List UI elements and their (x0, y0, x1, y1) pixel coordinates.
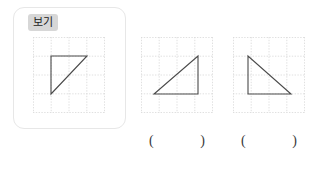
answer-blank-a[interactable]: ( ) (141, 131, 213, 151)
paren-close: ) (292, 134, 297, 148)
option-a-triangle-shape (154, 56, 198, 94)
paren-open: ( (149, 134, 154, 148)
option-b-grid (233, 37, 305, 113)
paren-close: ) (200, 134, 205, 148)
answer-blank-b[interactable]: ( ) (233, 131, 305, 151)
example-badge-label: 보기 (28, 14, 58, 31)
example-grid (33, 37, 105, 113)
option-a-triangle (141, 37, 213, 113)
option-a-grid (141, 37, 213, 113)
option-b-triangle (233, 37, 305, 113)
option-b-triangle-shape (248, 56, 291, 94)
worksheet-page: 보기 (0, 0, 323, 169)
example-triangle-shape (51, 56, 87, 94)
example-triangle (33, 37, 105, 113)
paren-open: ( (241, 134, 246, 148)
